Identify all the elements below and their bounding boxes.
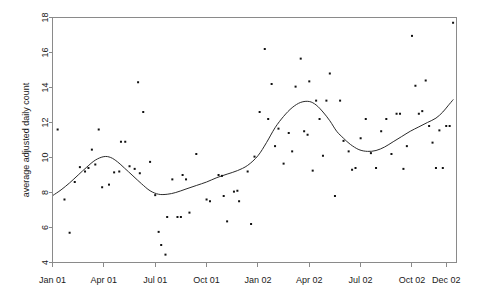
y-tick-label: 18 bbox=[40, 12, 50, 22]
y-axis-title: average adjusted daily count bbox=[21, 82, 31, 197]
data-point-marker bbox=[218, 174, 220, 176]
x-tick-label: Oct 02 bbox=[399, 275, 426, 285]
data-point-marker bbox=[209, 200, 211, 202]
data-point-marker bbox=[396, 113, 398, 115]
data-point-marker bbox=[166, 216, 168, 218]
data-point-marker bbox=[223, 195, 225, 197]
x-tick-label: Jan 02 bbox=[244, 275, 271, 285]
data-point-marker bbox=[69, 232, 71, 234]
data-point-marker bbox=[94, 164, 96, 166]
data-point-marker bbox=[360, 137, 362, 139]
data-point-marker bbox=[142, 111, 144, 113]
data-point-marker bbox=[375, 167, 377, 169]
data-point-marker bbox=[180, 216, 182, 218]
data-point-marker bbox=[329, 73, 331, 75]
data-points bbox=[57, 22, 454, 256]
data-point-marker bbox=[277, 128, 279, 130]
data-point-marker bbox=[288, 132, 290, 134]
data-point-marker bbox=[438, 129, 440, 131]
smoothed-fit-line bbox=[53, 100, 453, 195]
data-point-marker bbox=[322, 155, 324, 157]
data-point-marker bbox=[325, 100, 327, 102]
data-point-marker bbox=[274, 145, 276, 147]
data-point-marker bbox=[370, 152, 372, 154]
data-point-marker bbox=[247, 171, 249, 173]
data-point-marker bbox=[418, 113, 420, 115]
data-point-marker bbox=[307, 134, 309, 136]
data-point-marker bbox=[385, 118, 387, 120]
x-tick-label: Dec 02 bbox=[432, 275, 461, 285]
data-point-marker bbox=[63, 199, 65, 201]
data-point-marker bbox=[87, 167, 89, 169]
data-point-marker bbox=[264, 48, 266, 50]
data-point-marker bbox=[134, 168, 136, 170]
data-point-marker bbox=[300, 58, 302, 60]
data-point-marker bbox=[452, 22, 454, 24]
data-point-marker bbox=[402, 168, 404, 170]
scatter-plot-svg: 4681012141618 Jan 01Apr 01Jul 01Oct 01Ja… bbox=[0, 0, 478, 296]
chart-container: 4681012141618 Jan 01Apr 01Jul 01Oct 01Ja… bbox=[0, 0, 478, 296]
data-point-marker bbox=[259, 111, 261, 113]
data-point-marker bbox=[160, 244, 162, 246]
data-point-marker bbox=[236, 190, 238, 192]
data-point-marker bbox=[348, 150, 350, 152]
data-point-marker bbox=[432, 142, 434, 144]
data-point-marker bbox=[390, 153, 392, 155]
x-tick-label: Oct 01 bbox=[193, 275, 220, 285]
y-tick-label: 4 bbox=[40, 260, 50, 265]
data-point-marker bbox=[295, 86, 297, 88]
data-point-marker bbox=[435, 167, 437, 169]
data-point-marker bbox=[226, 220, 228, 222]
data-point-marker bbox=[334, 195, 336, 197]
data-point-marker bbox=[312, 170, 314, 172]
x-tick-label: Jul 02 bbox=[349, 275, 373, 285]
y-axis-ticks: 4681012141618 bbox=[40, 12, 53, 265]
y-tick-label: 10 bbox=[40, 152, 50, 162]
data-point-marker bbox=[91, 149, 93, 151]
data-point-marker bbox=[428, 125, 430, 127]
data-point-marker bbox=[250, 223, 252, 225]
data-point-marker bbox=[206, 199, 208, 201]
x-tick-label: Apr 02 bbox=[296, 275, 323, 285]
y-tick-label: 16 bbox=[40, 47, 50, 57]
data-point-marker bbox=[442, 167, 444, 169]
y-tick-label: 6 bbox=[40, 225, 50, 230]
data-point-marker bbox=[171, 178, 173, 180]
data-point-marker bbox=[154, 194, 156, 196]
data-point-marker bbox=[108, 184, 110, 186]
data-point-marker bbox=[139, 172, 141, 174]
data-point-marker bbox=[57, 129, 59, 131]
data-point-marker bbox=[425, 80, 427, 82]
data-point-marker bbox=[411, 35, 413, 37]
data-point-marker bbox=[158, 231, 160, 233]
data-point-marker bbox=[283, 163, 285, 165]
data-point-marker bbox=[291, 150, 293, 152]
data-point-marker bbox=[195, 153, 197, 155]
data-point-marker bbox=[271, 83, 273, 85]
data-point-marker bbox=[164, 254, 166, 256]
data-point-marker bbox=[182, 174, 184, 176]
y-axis-title-text: average adjusted daily count bbox=[21, 82, 31, 197]
data-point-marker bbox=[267, 118, 269, 120]
data-point-marker bbox=[176, 216, 178, 218]
data-point-marker bbox=[98, 129, 100, 131]
data-point-marker bbox=[120, 141, 122, 143]
data-point-marker bbox=[113, 171, 115, 173]
data-point-marker bbox=[414, 85, 416, 87]
data-point-marker bbox=[343, 140, 345, 142]
data-point-marker bbox=[84, 171, 86, 173]
data-point-marker bbox=[233, 191, 235, 193]
data-point-marker bbox=[137, 81, 139, 83]
data-point-marker bbox=[129, 165, 131, 167]
x-tick-label: Jul 01 bbox=[143, 275, 167, 285]
data-point-marker bbox=[238, 200, 240, 202]
data-point-marker bbox=[118, 171, 120, 173]
data-point-marker bbox=[79, 166, 81, 168]
data-point-marker bbox=[188, 212, 190, 214]
data-point-marker bbox=[351, 169, 353, 171]
data-point-marker bbox=[339, 100, 341, 102]
data-point-marker bbox=[124, 141, 126, 143]
data-point-marker bbox=[421, 110, 423, 112]
x-tick-label: Apr 01 bbox=[91, 275, 118, 285]
data-point-marker bbox=[380, 130, 382, 132]
